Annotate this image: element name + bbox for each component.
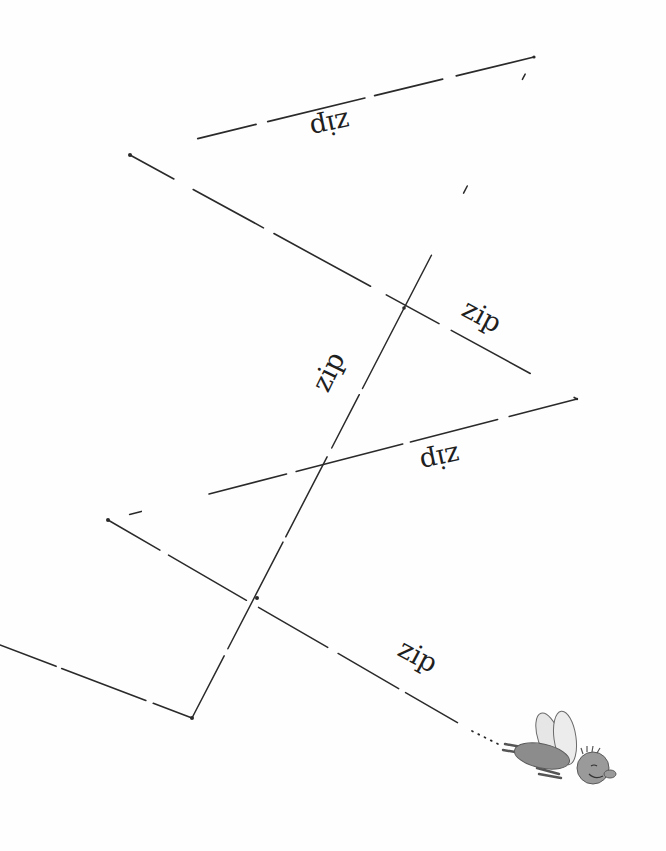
fly-icon bbox=[503, 710, 616, 784]
illustration-page: zip zip zip zip zip bbox=[0, 0, 666, 851]
zip-label-1: zip bbox=[308, 108, 353, 143]
zip-label-4: zip bbox=[418, 442, 463, 477]
